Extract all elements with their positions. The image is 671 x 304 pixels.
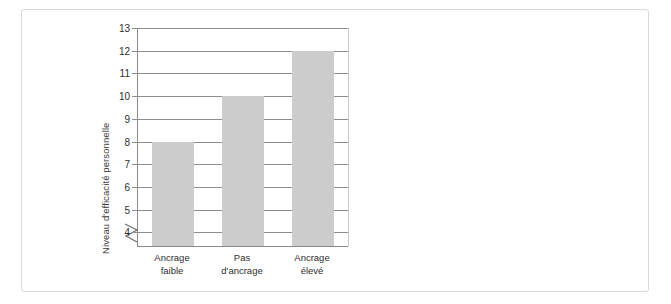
x-axis-baseline — [137, 246, 348, 247]
y-tick-mark — [132, 187, 137, 188]
y-tick-label: 8 — [99, 136, 130, 147]
bar — [222, 96, 264, 246]
y-tick-label: 6 — [99, 181, 130, 192]
y-tick-mark — [132, 51, 137, 52]
y-tick-mark — [132, 210, 137, 211]
y-tick-label: 11 — [99, 68, 130, 79]
y-tick-mark — [132, 164, 137, 165]
gridline — [138, 28, 348, 29]
plot-area-left — [137, 28, 349, 246]
y-tick-mark — [132, 96, 137, 97]
y-tick-label: 13 — [99, 23, 130, 34]
bar — [152, 142, 194, 246]
y-tick-label: 9 — [99, 113, 130, 124]
y-tick-mark — [132, 232, 137, 233]
y-tick-mark — [132, 142, 137, 143]
figure-container: Niveau d'efficacité personnelle 45678910… — [0, 0, 671, 304]
y-tick-mark — [132, 73, 137, 74]
chart-panel-perseverance: Degré de persévérance 51015202530Ancrage… — [345, 0, 645, 304]
y-tick-mark — [132, 28, 137, 29]
y-tick-label: 5 — [99, 204, 130, 215]
x-tick-label: Ancrage élevé — [271, 252, 353, 277]
y-tick-label: 12 — [99, 45, 130, 56]
y-tick-mark — [132, 119, 137, 120]
y-tick-label: 7 — [99, 159, 130, 170]
y-tick-label: 4 — [99, 227, 130, 238]
y-tick-label: 10 — [99, 91, 130, 102]
chart-panel-efficacite: Niveau d'efficacité personnelle 45678910… — [24, 0, 344, 304]
bar — [292, 51, 334, 246]
